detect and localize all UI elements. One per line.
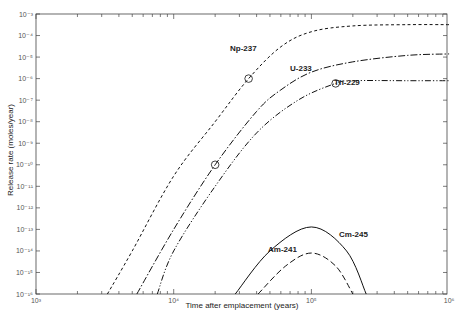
- y-tick-label: 10⁻⁹: [18, 140, 33, 147]
- circle-marker: [245, 75, 253, 83]
- x-axis-ticks: 10³10⁴10⁵10⁶: [31, 14, 455, 304]
- curve-am-241: [258, 253, 353, 294]
- x-tick-label: 10⁶: [444, 297, 455, 304]
- plot-frame: [36, 14, 447, 294]
- y-tick-label: 10⁻¹⁴: [16, 247, 33, 254]
- y-tick-label: 10⁻¹⁵: [16, 269, 33, 276]
- x-tick-label: 10⁵: [306, 297, 317, 304]
- y-axis-title: Release rate (moles/year): [6, 104, 15, 196]
- y-tick-label: 10⁻¹⁰: [16, 161, 33, 168]
- label-u-233: U-233: [290, 64, 312, 73]
- x-axis-title: Time after emplacement (years): [185, 301, 298, 310]
- y-tick-label: 10⁻³: [19, 11, 34, 18]
- label-cm-245: Cm-245: [339, 230, 368, 239]
- x-tick-label: 10³: [31, 297, 42, 304]
- curve-u-233: [137, 54, 449, 294]
- y-axis-ticks: 10⁻³10⁻⁴10⁻⁵10⁻⁶10⁻⁷10⁻⁸10⁻⁹10⁻¹⁰10⁻¹¹10…: [16, 11, 447, 298]
- y-tick-label: 10⁻⁵: [18, 54, 33, 61]
- label-np-237: Np-237: [230, 44, 257, 53]
- label-am-241: Am-241: [268, 245, 297, 254]
- release-rate-chart: 10⁻³10⁻⁴10⁻⁵10⁻⁶10⁻⁷10⁻⁸10⁻⁹10⁻¹⁰10⁻¹¹10…: [0, 0, 458, 318]
- y-tick-label: 10⁻¹³: [17, 226, 34, 233]
- curve-th-229: [157, 81, 449, 295]
- label-th-229: Th-229: [334, 78, 360, 87]
- y-tick-label: 10⁻¹¹: [17, 183, 34, 190]
- y-tick-label: 10⁻⁷: [19, 97, 34, 104]
- y-tick-label: 10⁻⁶: [18, 75, 33, 82]
- x-tick-label: 10⁴: [168, 297, 179, 304]
- y-tick-label: 10⁻¹²: [17, 204, 34, 211]
- y-tick-label: 10⁻⁴: [18, 32, 33, 39]
- y-tick-label: 10⁻⁸: [18, 118, 33, 125]
